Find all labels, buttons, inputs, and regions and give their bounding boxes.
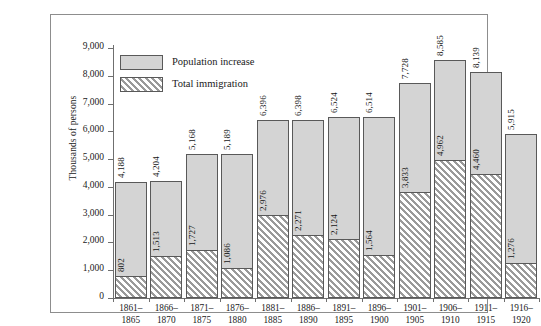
x-axis-tick-mark: [220, 298, 221, 302]
x-axis-label: 1871–1875: [182, 303, 222, 326]
bar-total-immigration: [470, 174, 502, 298]
bar-value-label-population-increase: 5,189: [222, 129, 232, 150]
bar-group: 8,5854,962: [434, 48, 466, 298]
x-axis-label-line: 1905: [395, 315, 435, 326]
bar-total-immigration: [186, 250, 218, 298]
x-axis-tick-mark: [184, 298, 185, 302]
bar-value-label-population-increase: 6,524: [329, 92, 339, 113]
x-axis-label-line: 1875: [182, 315, 222, 326]
bar-total-immigration: [292, 235, 324, 298]
bar-group: 8,1394,460: [470, 48, 502, 298]
legend-label-total-immigration: Total immigration: [172, 78, 248, 89]
bar-total-immigration: [257, 215, 289, 298]
x-axis-tick-mark: [362, 298, 363, 302]
bar-total-immigration: [221, 268, 253, 298]
bar-total-immigration: [150, 256, 182, 298]
bar-value-label-population-increase: 6,398: [293, 96, 303, 117]
chart-frame: Thousands of persons 01,0002,0003,0004,0…: [50, 14, 488, 313]
x-axis-label-line: 1876–: [218, 303, 258, 315]
bar-total-immigration: [399, 192, 431, 298]
x-axis-tick-mark: [149, 298, 150, 302]
bar-value-label-total-immigration: 4,460: [471, 149, 481, 170]
legend-swatch-solid-icon: [120, 55, 163, 70]
bar-total-immigration: [505, 263, 537, 298]
x-axis-tick-mark: [468, 298, 469, 302]
x-axis-label-line: 1891–: [324, 303, 364, 315]
x-axis-label-line: 1885: [253, 315, 293, 326]
x-axis-label-line: 1861–: [111, 303, 151, 315]
x-axis-label-line: 1866–: [147, 303, 187, 315]
x-axis-label-line: 1911–: [466, 303, 506, 315]
bar-group: 7,7283,833: [399, 48, 431, 298]
y-axis-tick-label: 0: [99, 291, 104, 301]
x-axis-label: 1906–1910: [431, 303, 471, 326]
x-axis-label-line: 1906–: [431, 303, 471, 315]
x-axis-label: 1886–1890: [289, 303, 329, 326]
x-axis-label: 1916–1920: [502, 303, 541, 326]
x-axis-tick-mark: [539, 298, 540, 302]
bar-value-label-total-immigration: 2,124: [329, 214, 339, 235]
y-axis-tick-label: 2,000: [83, 235, 104, 245]
x-axis-label-line: 1910: [431, 315, 471, 326]
bar-value-label-population-increase: 6,396: [258, 96, 268, 117]
bar-value-label-total-immigration: 3,833: [400, 167, 410, 188]
x-axis-label-line: 1895: [324, 315, 364, 326]
x-axis-label: 1896–1900: [360, 303, 400, 326]
bar-group: 6,5242,124: [328, 48, 360, 298]
x-axis-tick-mark: [291, 298, 292, 302]
bar-value-label-total-immigration: 1,086: [222, 243, 232, 264]
bar-value-label-population-increase: 5,915: [506, 109, 516, 130]
bar-value-label-total-immigration: 4,962: [435, 135, 445, 156]
bar-group: 6,5141,564: [363, 48, 395, 298]
x-axis-tick-mark: [504, 298, 505, 302]
x-axis-label-line: 1920: [502, 315, 541, 326]
x-axis-label-line: 1900: [360, 315, 400, 326]
bar-group: 6,3982,271: [292, 48, 324, 298]
bar-value-label-population-increase: 7,728: [400, 59, 410, 80]
x-axis-label-line: 1871–: [182, 303, 222, 315]
x-axis-label: 1881–1885: [253, 303, 293, 326]
x-axis-tick-mark: [397, 298, 398, 302]
bar-value-label-total-immigration: 2,976: [258, 191, 268, 212]
bar-value-label-total-immigration: 1,276: [506, 238, 516, 259]
y-axis-tick-label: 6,000: [83, 124, 104, 134]
y-axis-tick-label: 8,000: [83, 69, 104, 79]
x-axis-tick-mark: [255, 298, 256, 302]
x-axis-tick-mark: [433, 298, 434, 302]
x-axis-label-line: 1915: [466, 315, 506, 326]
bar-total-immigration: [363, 255, 395, 298]
x-axis-label-line: 1901–: [395, 303, 435, 315]
bar-value-label-population-increase: 4,188: [116, 157, 126, 178]
x-axis-label: 1861–1865: [111, 303, 151, 326]
y-axis-title: Thousands of persons: [68, 78, 78, 198]
bar-total-immigration: [328, 239, 360, 298]
bar-value-label-total-immigration: 1,727: [187, 225, 197, 246]
y-axis-tick-label: 9,000: [83, 41, 104, 51]
x-axis-label-line: 1881–: [253, 303, 293, 315]
bar-value-label-total-immigration: 1,564: [364, 230, 374, 251]
bar-group: 5,9151,276: [505, 48, 537, 298]
bar-value-label-total-immigration: 1,513: [151, 231, 161, 252]
y-axis-tick-label: 5,000: [83, 152, 104, 162]
bar-value-label-total-immigration: 2,271: [293, 210, 303, 231]
bar-value-label-population-increase: 5,168: [187, 130, 197, 151]
x-axis-label-line: 1896–: [360, 303, 400, 315]
x-axis-label-line: 1916–: [502, 303, 541, 315]
y-axis-tick-label: 3,000: [83, 208, 104, 218]
x-axis-label: 1911–1915: [466, 303, 506, 326]
bar-group: 6,3962,976: [257, 48, 289, 298]
x-axis-label-line: 1865: [111, 315, 151, 326]
y-axis-tick-label: 7,000: [83, 97, 104, 107]
bar-value-label-population-increase: 8,585: [435, 35, 445, 56]
bar-value-label-population-increase: 8,139: [471, 47, 481, 68]
legend-label-population-increase: Population increase: [172, 56, 255, 67]
x-axis-label: 1876–1880: [218, 303, 258, 326]
x-axis-label: 1866–1870: [147, 303, 187, 326]
bar-value-label-population-increase: 6,514: [364, 92, 374, 113]
y-axis-tick-label: 4,000: [83, 180, 104, 190]
bar-total-immigration: [434, 160, 466, 298]
x-axis-label-line: 1886–: [289, 303, 329, 315]
y-axis-tick-label: 1,000: [83, 263, 104, 273]
x-axis-label-line: 1890: [289, 315, 329, 326]
